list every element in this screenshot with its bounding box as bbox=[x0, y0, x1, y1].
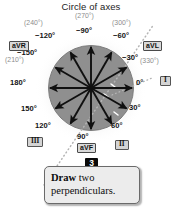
instruction-verb: Draw bbox=[51, 172, 76, 183]
alt-angle-270: (270°) bbox=[75, 13, 94, 20]
angle-label-180: 180° bbox=[10, 79, 26, 87]
instruction-callout: Draw two perpendiculars. bbox=[44, 166, 140, 204]
alt-angle-240: (240°) bbox=[24, 20, 43, 27]
angle-label-30: 30° bbox=[129, 104, 140, 112]
angle-label-minus120: −120° bbox=[35, 32, 55, 40]
lead-label-iii[interactable]: III bbox=[27, 137, 43, 147]
angle-label-0: 0° bbox=[136, 79, 143, 87]
figure-canvas: Circle of axes bbox=[0, 0, 182, 211]
lead-label-ii[interactable]: II bbox=[115, 140, 129, 150]
lead-label-avl[interactable]: aVL bbox=[143, 41, 162, 51]
angle-label-90: 90° bbox=[77, 133, 88, 141]
angle-label-120: 120° bbox=[35, 122, 51, 130]
angle-label-minus30: −30° bbox=[122, 54, 138, 62]
angle-label-150: 150° bbox=[21, 105, 37, 113]
lead-label-avf[interactable]: aVF bbox=[77, 143, 96, 153]
alt-angle-210: (210°) bbox=[5, 57, 24, 64]
instruction-text: Draw two perpendiculars. bbox=[51, 172, 137, 197]
angle-label-minus90: −90° bbox=[76, 27, 92, 35]
instruction-line1-rest: two bbox=[76, 172, 94, 183]
lead-label-avr[interactable]: aVR bbox=[9, 41, 29, 51]
alt-angle-300: (300°) bbox=[112, 20, 131, 27]
lead-label-i[interactable]: I bbox=[160, 76, 171, 86]
alt-angle-330: (330°) bbox=[140, 58, 159, 65]
angle-label-minus60: −60° bbox=[113, 32, 129, 40]
angle-label-60: 60° bbox=[111, 122, 122, 130]
instruction-line2: perpendiculars. bbox=[51, 185, 115, 196]
